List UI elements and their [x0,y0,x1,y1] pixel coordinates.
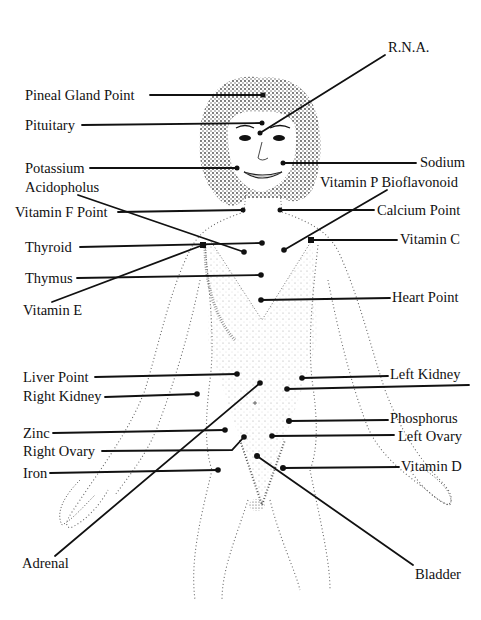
label-heart-point: Heart Point [392,289,458,305]
label-zinc: Zinc [23,425,50,441]
label-vitamin-e: Vitamin E [23,302,82,318]
label-rna: R.N.A. [388,39,430,55]
line-bladder [257,456,413,565]
line-left-kidney [302,376,388,378]
label-vitamin-p-bioflavonoid: Vitamin P Bioflavonoid [320,174,458,190]
line-vitamin-f [118,210,243,212]
line-zinc [53,430,225,433]
label-acidopholus: Acidopholus [25,179,99,195]
line-left-ovary [272,435,394,436]
label-pituitary: Pituitary [25,117,75,133]
label-right-kidney: Right Kidney [23,388,102,404]
label-adrenal: Adrenal [22,555,69,571]
line-adrenal [55,383,260,556]
line-unlabeled [287,385,469,389]
label-vitamin-c: Vitamin C [400,231,460,247]
label-thyroid: Thyroid [25,239,72,255]
label-left-ovary: Left Ovary [398,428,462,444]
label-vitamin-d: Vitamin D [401,458,462,474]
line-vitamin-d [283,467,399,468]
label-potassium: Potassium [25,160,85,176]
label-liver-point: Liver Point [23,369,89,385]
label-bladder: Bladder [415,566,461,582]
label-sodium: Sodium [420,154,465,170]
body-points-diagram: R.N.A. Pineal Gland Point Pituitary Pota… [0,0,481,620]
line-right-ovary [102,437,244,451]
label-thymus: Thymus [25,270,73,286]
label-calcium-point: Calcium Point [377,202,460,218]
line-thyroid [80,243,262,247]
label-vitamin-f-point: Vitamin F Point [15,204,108,220]
line-right-kidney [105,394,197,397]
line-iron [50,470,218,473]
label-pineal-gland-point: Pineal Gland Point [25,87,135,103]
line-liver [95,374,237,377]
label-left-kidney: Left Kidney [390,366,460,382]
line-vitamin-e [52,245,203,302]
label-phosphorus: Phosphorus [390,410,458,426]
label-iron: Iron [23,465,47,481]
label-right-ovary: Right Ovary [23,443,95,459]
line-phosphorus [289,420,388,421]
